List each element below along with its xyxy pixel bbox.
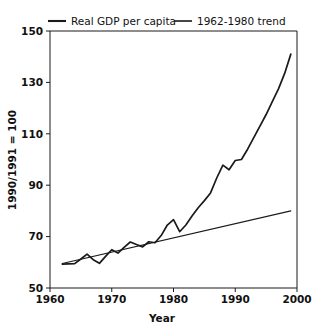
y-axis-title: 1990/1991 = 100 [6, 110, 18, 210]
y-tick-label: 150 [21, 25, 43, 37]
series-line-1962-1980-trend [62, 211, 290, 264]
y-tick-label: 110 [21, 128, 43, 140]
y-tick-label: 50 [28, 282, 43, 294]
x-tick-label: 1990 [221, 293, 250, 305]
x-tick-label: 1960 [35, 293, 64, 305]
chart-container: Real GDP per capita 1962-1980 trend 5070… [0, 0, 321, 329]
x-axis-title: Year [148, 312, 176, 324]
data-series-group [62, 54, 290, 264]
x-tick-label: 1970 [97, 293, 126, 305]
y-tick-label: 90 [28, 179, 43, 191]
x-axis: 19601970198019902000 [35, 288, 311, 305]
chart-legend: Real GDP per capita 1962-1980 trend [48, 15, 286, 27]
axes-box [50, 31, 297, 288]
x-tick-label: 2000 [282, 293, 311, 305]
y-tick-label: 130 [21, 76, 43, 88]
legend-label-real-gdp: Real GDP per capita [71, 15, 176, 27]
x-tick-label: 1980 [159, 293, 188, 305]
gdp-per-capita-line-chart: Real GDP per capita 1962-1980 trend 5070… [0, 0, 321, 329]
plot-frame [50, 31, 297, 288]
series-line-real-gdp-per-capita [62, 54, 290, 264]
legend-label-trend: 1962-1980 trend [197, 15, 286, 27]
y-tick-label: 70 [28, 230, 43, 242]
y-axis: 507090110130150 [21, 25, 50, 294]
